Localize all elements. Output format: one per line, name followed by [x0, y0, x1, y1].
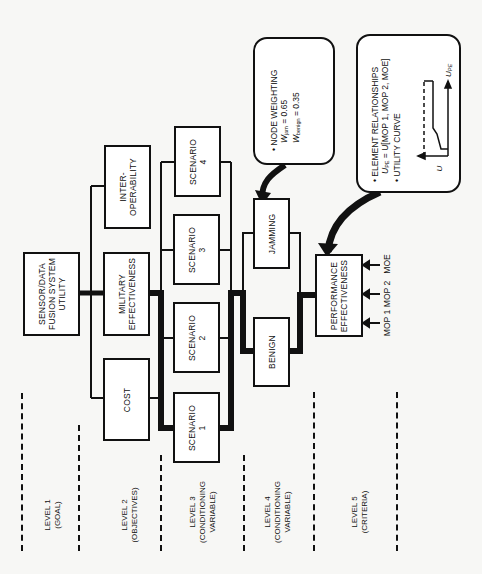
element-relationships-callout: • ELEMENT RELATIONSHIPS UPE = U[MOP 1, M…	[356, 34, 461, 193]
input-label-mop2: MOP 2	[382, 281, 392, 307]
scenario-box-1: SCENARIO 1	[173, 392, 220, 463]
criteria-label: PERFORMANCE EFFECTIVENESS	[329, 259, 349, 332]
input-label-moe: MOE	[382, 254, 392, 273]
goal-box-sensor-data-fusion-utility: SENSOR/DATA FUSION SYSTEM UTILITY	[23, 252, 80, 336]
scenario-label: SCENARIO 2	[187, 315, 207, 361]
scenario-box-4: SCENARIO 4	[174, 126, 221, 197]
level-5-label: LEVEL 5 (CRITERIA)	[350, 491, 370, 534]
objective-label: INTER- OPERABILITY	[118, 158, 138, 216]
level-divider	[243, 455, 245, 551]
w-jam-line: Wjam = 0.65	[279, 70, 291, 151]
level-4-label: LEVEL 4 (CONDITIONING VARIABLE)	[263, 481, 293, 543]
goal-label: SENSOR/DATA FUSION SYSTEM UTILITY	[37, 258, 67, 330]
condition-label: BENIGN	[267, 335, 277, 369]
scenario-label: SCENARIO 4	[188, 139, 208, 185]
objective-label: MILITARY EFFECTIVENESS	[117, 258, 137, 331]
scenario-box-3: SCENARIO 3	[173, 214, 220, 285]
level-divider	[78, 425, 80, 551]
input-label-mop1: MOP 1	[382, 310, 392, 336]
curve-y-label: U	[435, 166, 444, 172]
condition-box-jamming: JAMMING	[253, 198, 290, 269]
condition-label: JAMMING	[267, 213, 277, 254]
level-1-label: LEVEL 1 (GOAL)	[43, 499, 63, 530]
objective-box-military-effectiveness: MILITARY EFFECTIVENESS	[103, 252, 150, 336]
level-divider	[21, 393, 23, 551]
scenario-label: SCENARIO 3	[187, 227, 207, 273]
utility-curve-plot	[358, 36, 463, 195]
level-divider	[160, 455, 162, 551]
curve-x-label: UPE	[444, 64, 453, 77]
w-benign-line: Wbenign = 0.35	[291, 70, 303, 151]
node-weighting-callout: • NODE WEIGHTING Wjam = 0.65 Wbenign = 0…	[253, 37, 335, 165]
scenario-box-2: SCENARIO 2	[173, 302, 220, 373]
level-2-label: LEVEL 2 (OBJECTIVES)	[120, 487, 140, 542]
level-3-label: LEVEL 3 (CONDITIONING VARIABLE)	[188, 481, 218, 543]
objective-label: COST	[122, 387, 132, 411]
objective-box-interoperability: INTER- OPERABILITY	[104, 145, 151, 229]
level-divider	[313, 392, 315, 551]
level-divider	[396, 392, 398, 551]
scenario-label: SCENARIO 1	[187, 405, 207, 451]
criteria-box-performance-effectiveness: PERFORMANCE EFFECTIVENESS	[315, 254, 363, 337]
node-weighting-title: • NODE WEIGHTING	[269, 70, 279, 151]
objective-box-cost: COST	[103, 358, 150, 441]
condition-box-benign: BENIGN	[253, 317, 290, 387]
